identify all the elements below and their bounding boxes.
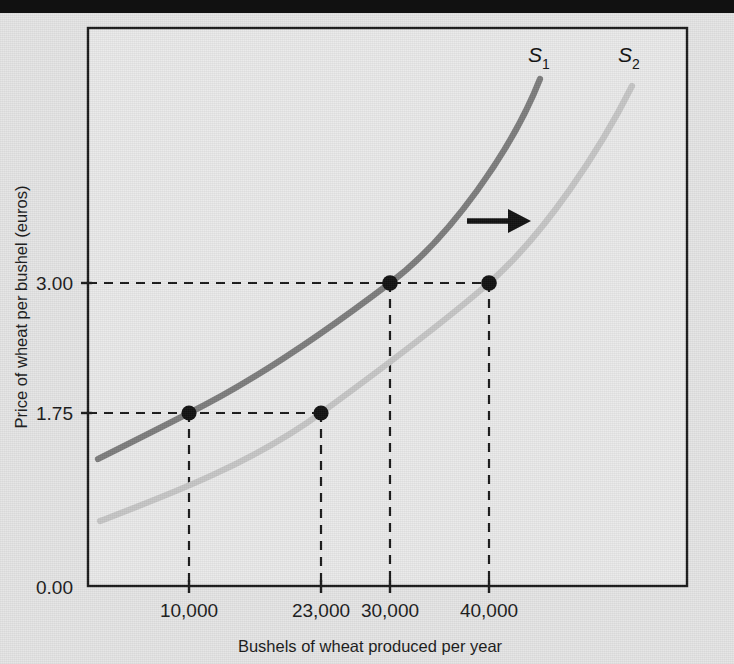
marker-s1-10000-1-75 <box>181 405 196 420</box>
marker-s2-23000-1-75 <box>313 405 328 420</box>
curve-label-s1-subscript: 1 <box>542 56 550 72</box>
x-axis-title: Bushels of wheat produced per year <box>238 637 503 655</box>
curve-label-s1: S <box>528 43 542 66</box>
x-tick-label-10000: 10,000 <box>160 600 218 621</box>
y-axis-title: Price of wheat per bushel (euros) <box>12 185 30 428</box>
x-tick-label-40000: 40,000 <box>460 600 518 621</box>
y-tick-label-3-00: 3.00 <box>36 273 73 294</box>
marker-s1-30000-3-00 <box>382 275 398 291</box>
x-tick-label-30000: 30,000 <box>361 600 419 621</box>
plot-area-background <box>88 28 687 586</box>
supply-curve-chart: 3.00 1.75 0.00 10,000 23,000 30,000 40,0… <box>0 0 734 664</box>
figure-container: 3.00 1.75 0.00 10,000 23,000 30,000 40,0… <box>0 0 734 664</box>
curve-label-s2: S <box>618 43 632 66</box>
page-top-black-bar <box>0 0 734 13</box>
marker-s2-40000-3-00 <box>481 275 497 291</box>
x-tick-label-23000: 23,000 <box>292 600 350 621</box>
y-tick-label-1-75: 1.75 <box>36 403 73 424</box>
y-tick-label-0-00: 0.00 <box>36 577 73 598</box>
curve-label-s2-subscript: 2 <box>632 56 640 72</box>
